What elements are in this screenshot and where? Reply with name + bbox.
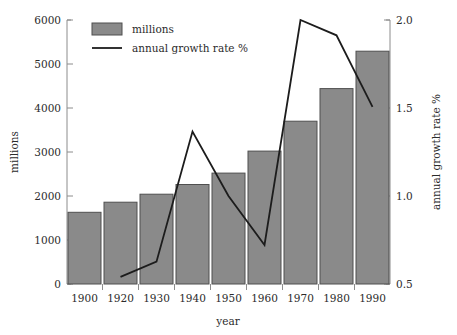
chart-canvas: 6000 5000 4000 3000 2000 1000 0 millions… xyxy=(0,0,457,335)
left-tick-label-1000: 1000 xyxy=(34,234,61,246)
bar-series-millions xyxy=(68,51,389,284)
y-axis-left-title: millions xyxy=(8,131,20,173)
right-axis: 2.0 1.5 1.0 0.5 annual growth rate % xyxy=(384,14,442,290)
bar-1930 xyxy=(140,194,173,284)
bar-1980 xyxy=(320,89,353,284)
bar-1950 xyxy=(212,173,245,284)
chart-legend: millions annual growth rate % xyxy=(92,23,248,54)
x-axis: 1900 1920 1930 1940 1950 1960 1970 1980 … xyxy=(71,284,386,327)
left-tick-label-2000: 2000 xyxy=(34,190,61,202)
x-tick-label-1960: 1960 xyxy=(251,292,278,304)
right-tick-label-1-0: 1.0 xyxy=(396,190,413,202)
bar-1990 xyxy=(356,51,389,284)
bar-1900 xyxy=(68,212,101,284)
left-tick-label-3000: 3000 xyxy=(34,146,61,158)
x-tick-label-1930: 1930 xyxy=(143,292,170,304)
left-tick-label-6000: 6000 xyxy=(34,14,61,26)
x-tick-label-1970: 1970 xyxy=(287,292,314,304)
left-tick-label-5000: 5000 xyxy=(34,58,61,70)
x-tick-label-1920: 1920 xyxy=(107,292,134,304)
population-growth-chart: 6000 5000 4000 3000 2000 1000 0 millions… xyxy=(0,0,457,335)
left-axis: 6000 5000 4000 3000 2000 1000 0 millions xyxy=(8,14,73,290)
x-axis-title: year xyxy=(215,315,240,327)
left-axis-tick-labels: 6000 5000 4000 3000 2000 1000 0 xyxy=(34,14,61,290)
x-tick-label-1900: 1900 xyxy=(71,292,98,304)
x-tick-label-1990: 1990 xyxy=(359,292,386,304)
right-tick-label-1-5: 1.5 xyxy=(396,102,413,114)
right-tick-label-0-5: 0.5 xyxy=(396,278,413,290)
right-tick-label-2-0: 2.0 xyxy=(396,14,413,26)
x-tick-label-1980: 1980 xyxy=(323,292,350,304)
x-tick-label-1940: 1940 xyxy=(179,292,206,304)
bar-1970 xyxy=(284,121,317,284)
bar-1940 xyxy=(176,185,209,285)
right-axis-tick-labels: 2.0 1.5 1.0 0.5 xyxy=(396,14,413,290)
legend-label-millions: millions xyxy=(132,23,174,35)
y-axis-right-title: annual growth rate % xyxy=(430,94,442,210)
x-axis-tick-labels: 1900 1920 1930 1940 1950 1960 1970 1980 … xyxy=(71,292,386,304)
x-axis-ticks xyxy=(103,284,355,290)
left-tick-label-4000: 4000 xyxy=(34,102,61,114)
legend-swatch-millions xyxy=(92,23,122,35)
legend-label-growth-rate: annual growth rate % xyxy=(132,42,248,54)
left-tick-label-0: 0 xyxy=(54,278,61,290)
x-tick-label-1950: 1950 xyxy=(215,292,242,304)
